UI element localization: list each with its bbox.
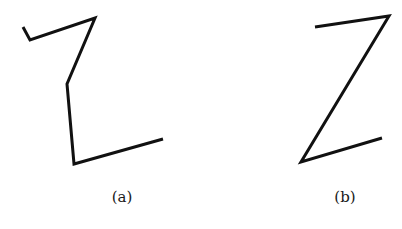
figure-label-a: (a) bbox=[112, 188, 133, 206]
polyline-b bbox=[301, 16, 389, 162]
figure-label-b: (b) bbox=[334, 188, 355, 206]
polyline-a bbox=[23, 18, 163, 164]
